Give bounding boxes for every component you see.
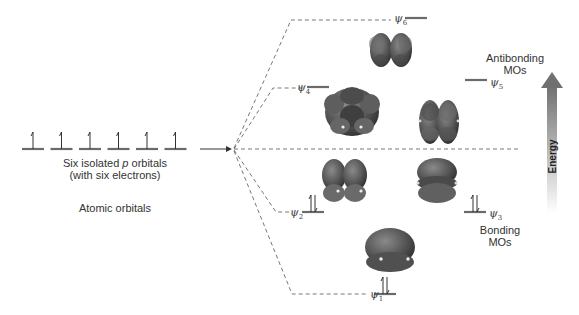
antibonding-label: Antibonding MOs: [475, 52, 555, 76]
electron-up-arrow: [471, 195, 473, 212]
mo-level-psi2: [302, 195, 324, 212]
antibonding-line2: MOs: [503, 64, 526, 76]
combine-arrow: [200, 146, 232, 152]
electron-up-arrow: [145, 132, 147, 149]
orbital-image-psi3: [417, 158, 458, 203]
electron-up-arrow: [60, 132, 62, 149]
electron-up-arrow: [117, 132, 119, 149]
atomic-orbitals-label: Atomic orbitals: [60, 202, 170, 214]
psi6-label: ψ6: [394, 12, 407, 27]
electron-up-arrow: [31, 132, 33, 149]
antibonding-line1: Antibonding: [486, 52, 544, 64]
electron-down-arrow: [387, 277, 389, 294]
bonding-line1: Bonding: [480, 224, 520, 236]
atomic-orbital-level: [136, 132, 158, 149]
atomic-orbital-level: [165, 132, 187, 149]
psi2-label: ψ2: [290, 206, 303, 221]
electron-up-arrow: [88, 132, 90, 149]
psi1-label: ψ1: [370, 288, 383, 303]
atomic-orbitals-caption: Six isolated p orbitals (with six electr…: [40, 157, 190, 181]
electron-down-arrow: [315, 195, 317, 212]
atomic-orbital-level: [22, 132, 44, 149]
orbital-image-psi4: [324, 87, 380, 136]
atomic-orbital-levels: [22, 132, 187, 149]
correlation-line-psi4: [234, 88, 303, 149]
orbital-image-psi1: [365, 228, 415, 272]
orbital-image-psi2: [322, 159, 367, 202]
mo-level-psi3: [464, 195, 486, 212]
caption-post: orbitals: [128, 157, 167, 169]
orbital-image-psi5: [419, 100, 460, 144]
electron-up-arrow: [174, 132, 176, 149]
atomic-orbital-level: [79, 132, 101, 149]
psi4-label: ψ4: [297, 81, 310, 96]
orbital-image-psi6: [369, 33, 412, 67]
bonding-line2: MOs: [488, 236, 511, 248]
electron-up-arrow: [309, 195, 311, 212]
correlation-line-psi2: [234, 150, 290, 212]
atomic-orbital-level: [108, 132, 130, 149]
bonding-label: Bonding MOs: [475, 224, 525, 248]
psi5-label: ψ5: [490, 76, 503, 91]
electron-down-arrow: [477, 195, 479, 212]
caption-pre: Six isolated: [63, 157, 122, 169]
atomic-orbital-level: [51, 132, 73, 149]
energy-label: Energy: [547, 133, 558, 181]
psi3-label: ψ3: [489, 207, 502, 222]
caption-line2: (with six electrons): [69, 169, 160, 181]
